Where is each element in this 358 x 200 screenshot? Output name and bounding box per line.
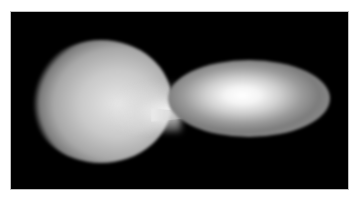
image-frame	[11, 12, 348, 189]
accretion-disk	[168, 60, 330, 137]
